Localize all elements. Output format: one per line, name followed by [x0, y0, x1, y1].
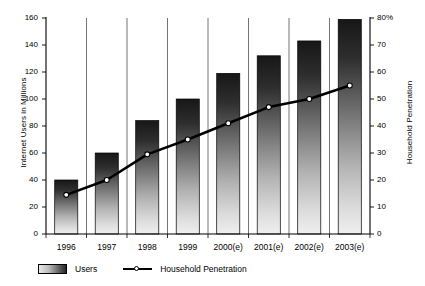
legend-label-users: Users: [75, 264, 97, 274]
bar-2003(e): [338, 19, 361, 234]
bar-1998: [136, 121, 159, 234]
bar-1996: [55, 180, 78, 234]
axes-group: [42, 17, 374, 238]
bar-1999: [176, 99, 199, 234]
y-axis-left-tick-label: 160: [12, 13, 38, 22]
bar-swatch-icon: [38, 264, 67, 274]
chart-container: Internet Users in Millions Household Pen…: [0, 0, 425, 286]
line-marker-2002(e): [307, 97, 312, 102]
y-axis-left-tick-label: 140: [12, 40, 38, 49]
line-marker-1996: [64, 192, 69, 197]
y-axis-left-tick-label: 40: [12, 175, 38, 184]
x-axis-label-1999: 1999: [168, 242, 209, 252]
chart-legend: Users Household Penetration: [38, 262, 247, 276]
x-axis-label-1996: 1996: [46, 242, 87, 252]
bar-1997: [95, 153, 118, 234]
line-marker-1998: [145, 152, 150, 157]
x-axis-label-2003(e): 2003(e): [330, 242, 371, 252]
y-axis-right-tick-label: 40: [377, 121, 407, 130]
y-axis-right-tick-label: 0: [377, 229, 407, 238]
y-axis-right-tick-label: 30: [377, 148, 407, 157]
line-marker-1997: [104, 178, 109, 183]
y-axis-right-tick-label: 50: [377, 94, 407, 103]
y-axis-right-tick-label: 80%: [377, 13, 407, 22]
line-marker-1999: [185, 137, 190, 142]
x-axis-label-2000(e): 2000(e): [208, 242, 249, 252]
line-marker-2003(e): [347, 83, 352, 88]
y-axis-left-tick-label: 120: [12, 67, 38, 76]
legend-item-users[interactable]: Users: [38, 264, 97, 274]
x-axis-label-1998: 1998: [127, 242, 168, 252]
bar-2002(e): [298, 41, 321, 234]
line-marker-2001(e): [266, 105, 271, 110]
line-marker-swatch-icon: [123, 265, 152, 274]
y-axis-right-tick-label: 70: [377, 40, 407, 49]
y-axis-right-tick-label: 10: [377, 202, 407, 211]
line-marker-2000(e): [226, 121, 231, 126]
legend-item-household-penetration[interactable]: Household Penetration: [123, 264, 246, 274]
y-axis-right-tick-label: 20: [377, 175, 407, 184]
bar-2000(e): [217, 73, 240, 234]
x-axis-label-2002(e): 2002(e): [289, 242, 330, 252]
y-axis-right-tick-label: 60: [377, 67, 407, 76]
y-axis-left-tick-label: 20: [12, 202, 38, 211]
y-axis-left-tick-label: 60: [12, 148, 38, 157]
bar-2001(e): [257, 56, 280, 234]
y-axis-left-tick-label: 80: [12, 121, 38, 130]
y-axis-left-tick-label: 100: [12, 94, 38, 103]
y-axis-left-tick-label: 0: [12, 229, 38, 238]
x-axis-label-1997: 1997: [87, 242, 128, 252]
x-axis-label-2001(e): 2001(e): [249, 242, 290, 252]
legend-label-household-penetration: Household Penetration: [160, 264, 246, 274]
